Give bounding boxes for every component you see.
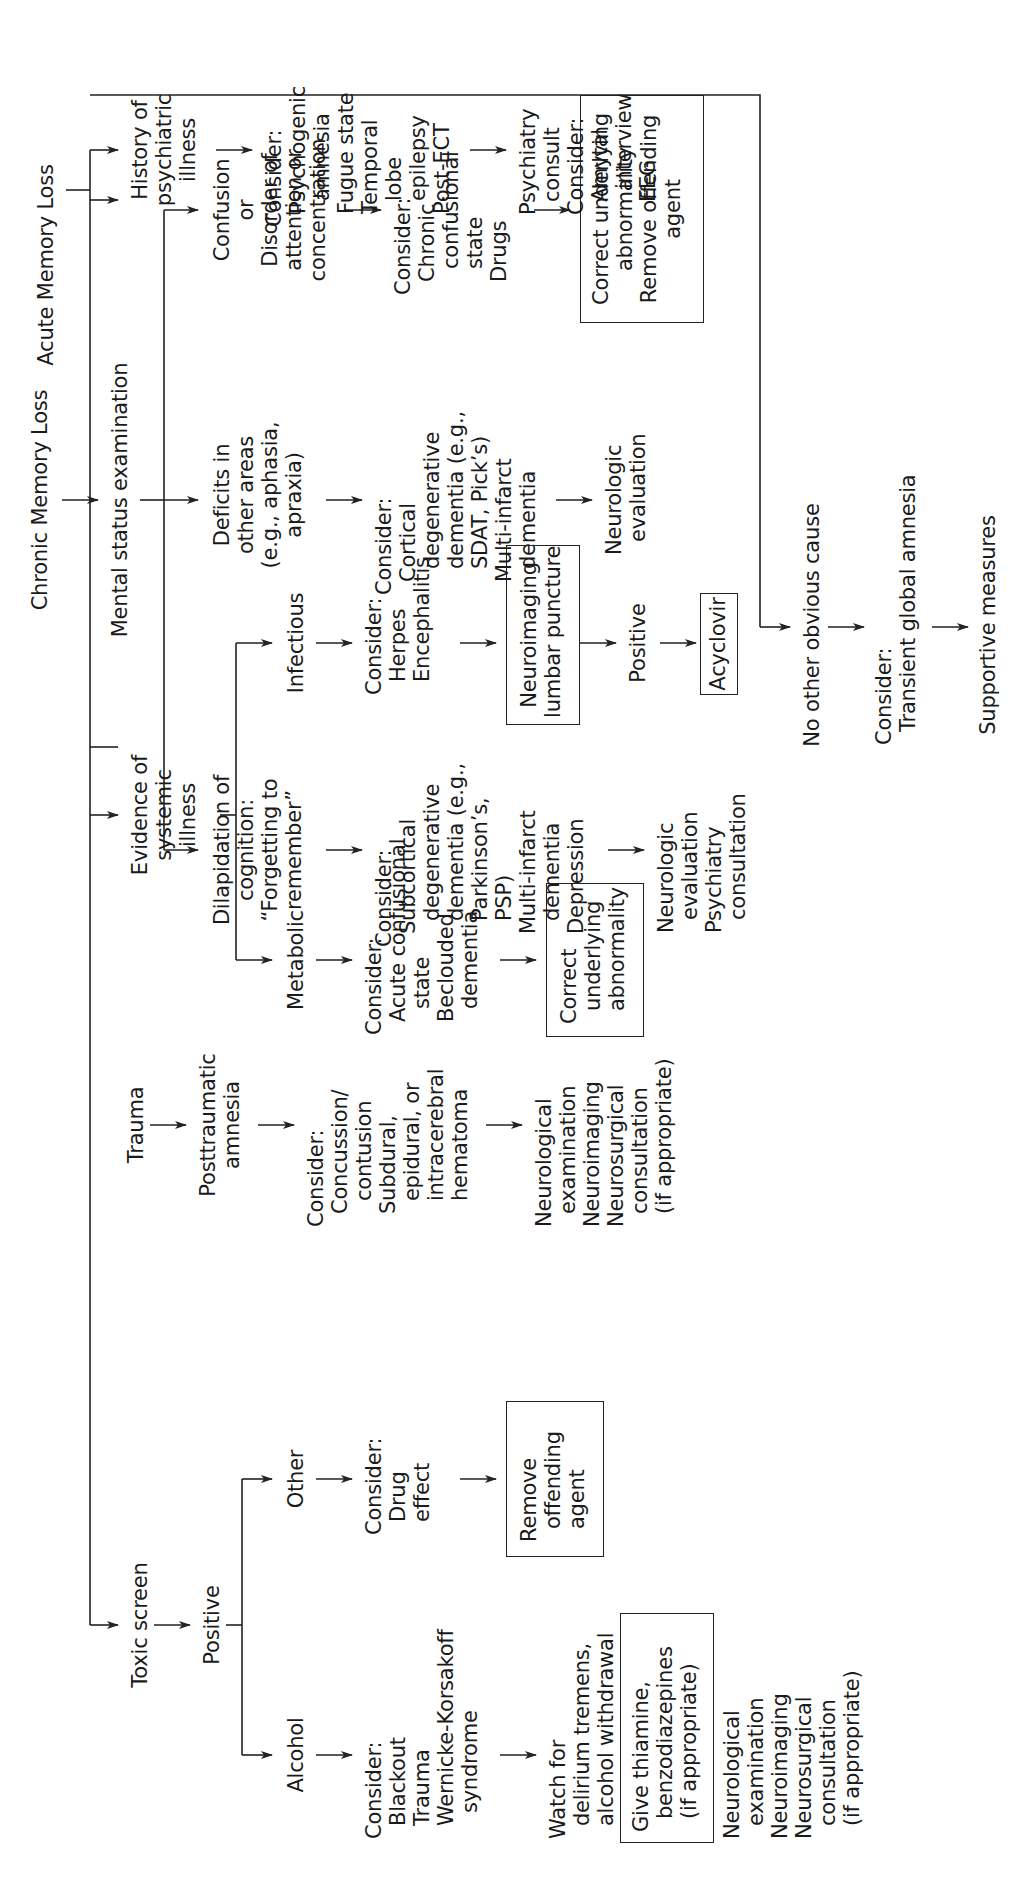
alcohol-watch: Watch for delirium tremens, alcohol with…: [546, 1599, 618, 1839]
supportive-measures: Supportive measures: [976, 505, 1000, 745]
metabolic-label: Metabolic: [284, 900, 308, 1020]
infectious-consider: Consider: Herpes Encephalitis: [362, 535, 434, 695]
psychiatric-history: History of psychiatric illness: [128, 75, 200, 225]
chronic-action-neurologic: Neurologic evaluation: [602, 395, 650, 555]
psychiatric-action: Psychiatry consult Consider: Amytal inte…: [516, 15, 660, 215]
transient-global-amnesia: Consider: Transient global amnesia: [872, 445, 920, 745]
acute-memory-loss-title: Acute Memory Loss: [34, 115, 58, 415]
correct-abnormality-box: Correct underlying abnormality: [546, 883, 644, 1037]
systemic-illness: Evidence of systemic illness: [128, 745, 200, 885]
remove-agent-box: Remove offending agent: [506, 1401, 604, 1557]
alcohol-consider: Consider: Blackout Trauma Wernicke-Korsa…: [362, 1599, 482, 1839]
flowchart-memory-loss: Chronic Memory Loss Mental status examin…: [0, 0, 1023, 1895]
no-other-cause: No other obvious cause: [800, 485, 824, 765]
thiamine-box-text: Give thiamine, benzodiazepines (if appro…: [621, 1614, 709, 1842]
toxic-positive: Positive: [200, 1575, 224, 1675]
neuroimaging-lp-box-text: Neuroimaging lumbar puncture: [507, 546, 575, 724]
posttraumatic-amnesia: Posttraumatic amnesia: [196, 1045, 244, 1205]
other-label: Other: [284, 1429, 308, 1529]
acyclovir-box: Acyclovir: [700, 593, 738, 695]
metabolic-consider: Consider: Acute confusional state Beclou…: [362, 805, 482, 1035]
alcohol-label: Alcohol: [284, 1705, 308, 1805]
chronic-finding-deficits: Deficits in other areas (e.g., aphasia, …: [210, 395, 306, 595]
thiamine-box: Give thiamine, benzodiazepines (if appro…: [620, 1613, 714, 1843]
chronic-action-neuro-psych: Neurologic evaluation Psychiatry consult…: [654, 713, 750, 933]
infectious-positive: Positive: [626, 593, 650, 693]
neuroimaging-lp-box: Neuroimaging lumbar puncture: [506, 545, 580, 725]
trauma-label: Trauma: [124, 1065, 148, 1185]
alcohol-followup: Neurological examination Neuroimaging Ne…: [720, 1599, 864, 1839]
correct-abnormality-box-text: Correct underlying abnormality: [547, 884, 639, 1036]
mental-status-exam: Mental status examination: [108, 300, 132, 700]
remove-agent-box-text: Remove offending agent: [507, 1402, 599, 1556]
toxic-screen: Toxic screen: [128, 1555, 152, 1695]
acyclovir-box-text: Acyclovir: [701, 594, 735, 694]
connector-lines: [0, 0, 1023, 1895]
other-consider: Consider: Drug effect: [362, 1395, 434, 1535]
infectious-label: Infectious: [284, 583, 308, 703]
psychiatric-consider: Consider: Psychogenic amnesia Fugue stat…: [262, 27, 454, 227]
